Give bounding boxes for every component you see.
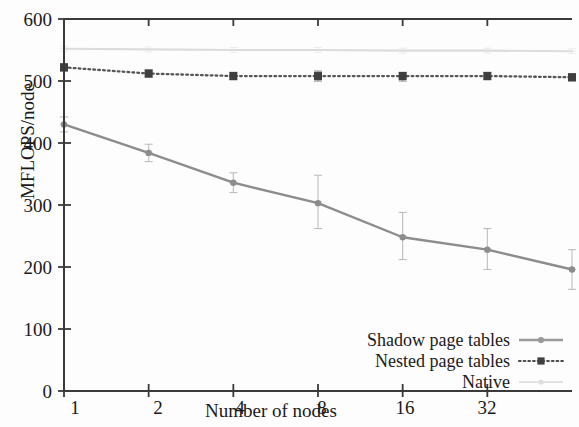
legend-key-dotted-line-icon <box>517 354 565 368</box>
ytick-label-100: 100 <box>0 320 52 339</box>
series-shadow-page-tables <box>60 117 576 289</box>
ytick-label-200: 200 <box>0 258 52 277</box>
legend-label-nested-page-tables: Nested page tables <box>375 352 510 370</box>
series-layer <box>60 46 576 289</box>
xtick-label-2: 2 <box>153 398 163 417</box>
legend-label-native: Native <box>462 373 510 391</box>
chart-figure: 600 500 400 300 200 100 0 1 2 4 8 16 32 … <box>0 0 579 427</box>
xtick-label-32: 32 <box>478 398 497 417</box>
legend-label-shadow-page-tables: Shadow page tables <box>367 331 510 349</box>
series-nested-page-tables <box>60 63 576 81</box>
legend-item-native: Native <box>340 371 565 392</box>
chart-legend: Shadow page tables Nested page tables Na… <box>340 329 565 392</box>
legend-item-shadow-page-tables: Shadow page tables <box>340 329 565 350</box>
xtick-label-16: 16 <box>396 398 415 417</box>
legend-key-faint-line-icon <box>517 375 565 389</box>
legend-item-nested-page-tables: Nested page tables <box>340 350 565 371</box>
x-axis-label: Number of nodes <box>205 400 337 422</box>
ytick-label-0: 0 <box>0 382 52 401</box>
series-native <box>60 46 576 53</box>
legend-key-solid-line-icon <box>517 333 565 347</box>
xtick-label-1: 1 <box>70 398 80 417</box>
y-axis-label: MFLOPS/node <box>17 61 39 221</box>
ytick-label-600: 600 <box>0 10 52 29</box>
